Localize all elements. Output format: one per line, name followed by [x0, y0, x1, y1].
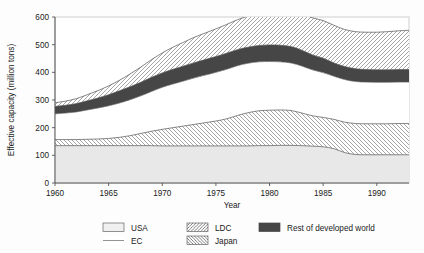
- y-tick-label: 500: [35, 41, 49, 50]
- x-axis-title: Year: [224, 201, 241, 210]
- x-tick-label: 1990: [368, 189, 387, 198]
- chart-legend: USA EC LDC Japan Rest of developed world: [103, 223, 375, 246]
- x-tick-label: 1970: [153, 189, 172, 198]
- legend-label-rest: Rest of developed world: [287, 224, 375, 233]
- x-tick-label: 1960: [46, 189, 65, 198]
- legend-swatch-ldc: [187, 223, 208, 232]
- x-tick-label: 1985: [314, 189, 333, 198]
- effective-capacity-area-chart: 0100200300400500600 19601965197019751980…: [0, 0, 424, 253]
- x-tick-label: 1965: [100, 189, 119, 198]
- y-tick-label: 100: [35, 151, 49, 160]
- legend-swatch-japan: [187, 236, 208, 245]
- x-axis-ticks: 1960196519701975198019851990: [46, 183, 386, 198]
- y-axis-title: Effective capacity (million tons): [7, 44, 16, 157]
- legend-swatch-rest: [259, 223, 280, 232]
- y-axis-ticks: 0100200300400500600: [35, 13, 55, 188]
- chart-figure: 0100200300400500600 19601965197019751980…: [0, 0, 424, 253]
- y-tick-label: 600: [35, 13, 49, 22]
- legend-label-ldc: LDC: [215, 224, 231, 233]
- x-tick-label: 1975: [207, 189, 226, 198]
- y-tick-label: 0: [44, 179, 49, 188]
- x-tick-label: 1980: [260, 189, 279, 198]
- legend-label-japan: Japan: [215, 237, 238, 246]
- y-tick-label: 200: [35, 124, 49, 133]
- legend-label-ec: EC: [131, 237, 142, 246]
- y-tick-label: 400: [35, 68, 49, 77]
- legend-label-usa: USA: [131, 224, 148, 233]
- y-tick-label: 300: [35, 96, 49, 105]
- legend-swatch-usa: [103, 223, 124, 232]
